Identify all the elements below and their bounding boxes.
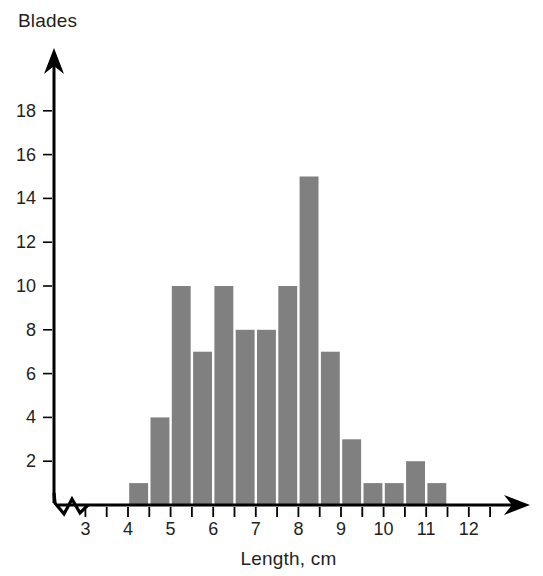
x-tick-label: 10 — [364, 519, 404, 540]
histogram-bar — [427, 483, 446, 505]
histogram-bar — [151, 417, 170, 505]
y-tick-label: 6 — [2, 363, 36, 384]
x-tick-label: 12 — [449, 519, 489, 540]
histogram-bar — [342, 439, 361, 505]
histogram-bar — [214, 286, 233, 505]
x-tick-label: 3 — [65, 519, 105, 540]
y-tick-label: 18 — [2, 100, 36, 121]
histogram-bar — [321, 352, 340, 505]
histogram-bar — [406, 461, 425, 505]
x-tick-label: 4 — [108, 519, 148, 540]
histogram-bar — [385, 483, 404, 505]
y-tick-label: 16 — [2, 144, 36, 165]
y-tick-label: 10 — [2, 276, 36, 297]
histogram-bar — [129, 483, 148, 505]
histogram-bar — [300, 177, 319, 506]
x-tick-label: 11 — [406, 519, 446, 540]
plot-area — [0, 0, 543, 576]
y-tick-label: 8 — [2, 319, 36, 340]
x-tick-label: 9 — [321, 519, 361, 540]
y-tick-label: 4 — [2, 407, 36, 428]
x-tick-label: 5 — [151, 519, 191, 540]
x-tick-label: 8 — [278, 519, 318, 540]
x-tick-label: 7 — [236, 519, 276, 540]
histogram-bar — [364, 483, 383, 505]
x-axis-title: Length, cm — [0, 548, 543, 570]
histogram-bar — [278, 286, 297, 505]
histogram-chart: Blades 24681012141618 3456789101112 Leng… — [0, 0, 543, 576]
histogram-bar — [193, 352, 212, 505]
y-tick-label: 14 — [2, 188, 36, 209]
histogram-bar — [236, 330, 255, 505]
y-tick-label: 2 — [2, 451, 36, 472]
x-tick-label: 6 — [193, 519, 233, 540]
histogram-bar — [172, 286, 191, 505]
y-tick-label: 12 — [2, 232, 36, 253]
histogram-bar — [257, 330, 276, 505]
bars-group — [129, 177, 446, 506]
x-axis-title-text: Length, cm — [207, 548, 337, 570]
